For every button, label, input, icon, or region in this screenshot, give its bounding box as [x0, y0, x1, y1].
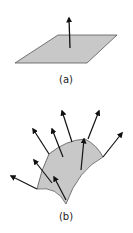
normal-arrow-icon [62, 111, 72, 142]
panel-a [15, 18, 117, 63]
caption-a: (a) [51, 74, 81, 85]
panel-b [11, 111, 122, 204]
normal-arrow-icon [11, 176, 37, 189]
normal-arrow-icon [88, 111, 99, 139]
normal-arrow-icon [33, 129, 49, 154]
flat-plane [15, 35, 117, 63]
caption-b: (b) [51, 211, 81, 222]
normal-arrow-icon [103, 133, 122, 157]
figure-canvas [0, 0, 133, 233]
curved-surface [37, 139, 103, 204]
